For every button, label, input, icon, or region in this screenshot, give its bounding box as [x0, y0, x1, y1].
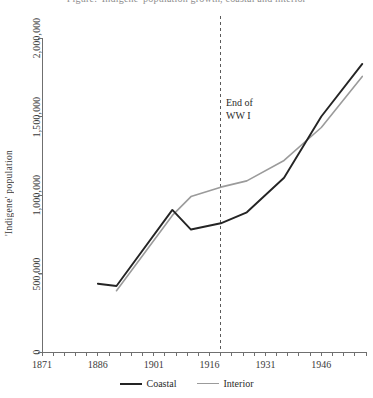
- legend-item-interior: Interior: [197, 378, 254, 389]
- plot-area: [0, 0, 373, 398]
- annotation-line-1: End of: [226, 96, 253, 109]
- legend-swatch-icon: [197, 383, 219, 384]
- chart-figure: Figure: 'Indigene' population growth, co…: [0, 0, 373, 398]
- y-axis-ticks: [38, 38, 42, 352]
- legend-swatch-icon: [120, 383, 142, 385]
- annotation-line-2: WW I: [226, 109, 253, 122]
- legend-item-coastal: Coastal: [120, 378, 177, 389]
- legend-label: Interior: [224, 378, 254, 389]
- chart-legend: CoastalInterior: [0, 378, 373, 389]
- end-of-wwi-annotation: End of WW I: [226, 96, 253, 122]
- legend-label: Coastal: [147, 378, 177, 389]
- x-axis-ticks: [42, 352, 366, 356]
- axes: [38, 38, 366, 356]
